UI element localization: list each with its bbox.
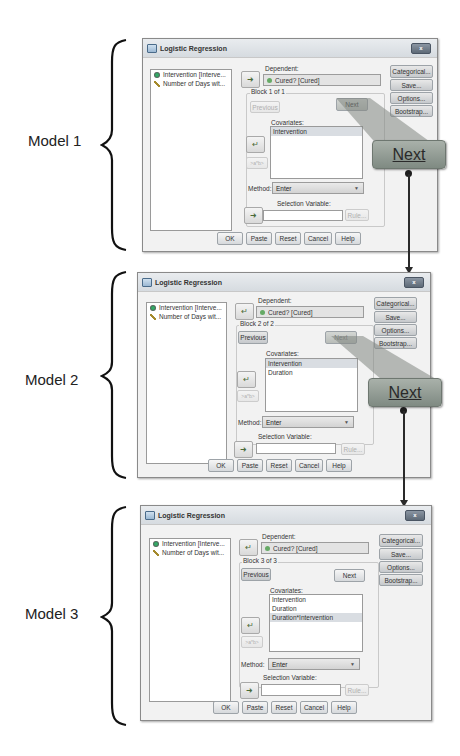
titlebar: Logistic Regression x [143,39,437,58]
dependent-value: Cured? [Cured] [273,545,317,552]
move-selection-button[interactable]: ➜ [240,682,259,699]
cancel-button[interactable]: Cancel [295,459,323,472]
block-label: Block 2 of 2 [239,320,275,327]
model-1-label: Model 1 [28,132,81,149]
list-item[interactable]: Intervention [270,595,362,604]
ok-button[interactable]: OK [213,701,239,714]
previous-button[interactable]: Previous [250,101,280,113]
list-item[interactable]: Number of Days wit... [151,79,231,88]
paste-button[interactable]: Paste [237,459,263,472]
move-covariate-button[interactable]: ↵ [237,371,256,388]
covariates-label: Covariates: [270,587,303,594]
move-dependent-button[interactable]: ↵ [235,303,254,320]
dropdown-caret-icon: ▼ [354,185,359,191]
method-select[interactable]: Enter▼ [272,182,364,194]
reset-button[interactable]: Reset [271,701,297,714]
list-item[interactable]: Number of Days wit... [150,548,230,557]
selection-variable-field[interactable] [256,443,336,454]
options-button[interactable]: Options... [379,561,423,573]
block-label: Block 3 of 3 [242,557,278,564]
interaction-button[interactable]: >a*b> [241,636,263,648]
dialog-title: Logistic Regression [158,512,225,519]
selection-variable-field[interactable] [261,684,341,696]
list-item[interactable]: Duration*Intervention [270,613,362,622]
dependent-field[interactable]: Cured? [Cured] [256,306,364,318]
next-callout: Next [368,378,442,407]
move-covariate-button[interactable]: ↵ [241,617,260,634]
reset-button[interactable]: Reset [266,459,292,472]
method-select[interactable]: Enter▼ [268,658,360,670]
move-dependent-button[interactable]: ↵ [239,539,258,556]
paste-button[interactable]: Paste [246,232,272,245]
rule-button[interactable]: Rule... [345,209,369,221]
titlebar: Logistic Regression x [138,273,430,292]
next-button[interactable]: Next [334,569,365,582]
rule-button[interactable]: Rule... [341,443,365,455]
selection-variable-label: Selection Variable: [258,433,312,440]
list-item[interactable]: Intervention [Interve... [151,70,231,79]
save-button[interactable]: Save... [390,79,433,91]
close-button[interactable]: x [411,43,431,54]
list-item[interactable]: Duration [270,604,362,613]
help-button[interactable]: Help [331,701,357,714]
save-button[interactable]: Save... [379,548,423,560]
variable-label: Number of Days wit... [159,313,221,320]
dropdown-caret-icon: ▼ [350,661,355,667]
categorical-button[interactable]: Categorical... [379,534,423,547]
variable-label: Intervention [Interve... [159,304,222,311]
connector-line [403,411,405,502]
reset-button[interactable]: Reset [275,232,301,245]
rule-button[interactable]: Rule... [345,684,369,696]
bootstrap-button[interactable]: Bootstrap... [379,574,423,586]
interaction-button[interactable]: >a*b> [237,390,259,402]
brace-icon [100,505,130,727]
app-icon [142,278,152,287]
dependent-field[interactable]: Cured? [Cured] [261,542,369,554]
paste-button[interactable]: Paste [242,701,268,714]
scale-variable-icon [154,81,160,87]
app-icon [145,511,155,520]
move-dependent-button[interactable]: ➜ [241,71,260,88]
categorical-button[interactable]: Categorical... [374,297,417,310]
ok-button[interactable]: OK [217,232,243,245]
next-callout: Next [372,140,446,169]
method-label: Method: [241,661,265,668]
variable-list[interactable]: Intervention [Interve... Number of Days … [150,69,232,231]
method-select[interactable]: Enter▼ [262,416,354,428]
nominal-variable-icon [150,305,156,311]
variable-list[interactable]: Intervention [Interve... Number of Days … [149,538,231,702]
model-2-label: Model 2 [25,371,78,388]
move-selection-button[interactable]: ➜ [234,441,253,458]
dependent-field[interactable]: Cured? [Cured] [263,74,381,86]
help-button[interactable]: Help [335,232,361,245]
move-selection-button[interactable]: ➜ [244,207,263,224]
selection-variable-field[interactable] [263,210,343,221]
titlebar: Logistic Regression x [141,506,431,525]
variable-list[interactable]: Intervention [Interve... Number of Days … [146,302,227,464]
previous-button[interactable]: Previous [241,568,271,581]
variable-label: Intervention [Interve... [163,71,226,78]
save-button[interactable]: Save... [374,311,417,323]
variable-icon [260,310,265,315]
move-covariate-button[interactable]: ↵ [246,136,265,153]
cancel-button[interactable]: Cancel [300,701,328,714]
help-button[interactable]: Help [326,459,352,472]
variable-label: Number of Days wit... [162,549,224,556]
categorical-button[interactable]: Categorical... [390,65,433,78]
variable-icon [265,546,270,551]
covariates-list[interactable]: Intervention Duration Duration*Intervent… [269,594,363,652]
method-label: Method: [238,419,262,426]
list-item[interactable]: Intervention [Interve... [150,539,230,548]
ok-button[interactable]: OK [208,459,234,472]
close-button[interactable]: x [404,277,424,288]
list-item[interactable]: Intervention [Interve... [147,303,226,312]
interaction-button[interactable]: >a*b> [246,157,268,169]
previous-button[interactable]: Previous [238,331,268,344]
close-button[interactable]: x [405,510,425,521]
list-item[interactable]: Number of Days wit... [147,312,226,321]
cancel-button[interactable]: Cancel [304,232,332,245]
callout-text: Next [393,146,426,163]
dependent-label: Dependent: [262,533,296,540]
variable-label: Number of Days wit... [163,80,225,87]
dropdown-caret-icon: ▼ [344,419,349,425]
